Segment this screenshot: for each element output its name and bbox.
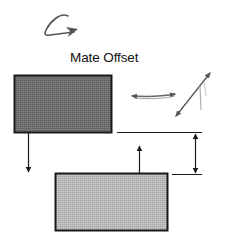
upper-part [15, 76, 112, 133]
lower-part [56, 174, 168, 231]
double-arrow-diagonal-icon [176, 73, 210, 116]
double-arrow-horizontal-icon [132, 94, 175, 99]
diagram-graphics [0, 0, 225, 248]
curved-arrow-icon [45, 15, 78, 37]
diagram-title: Mate Offset [70, 50, 138, 65]
mate-offset-diagram: Mate Offset [0, 0, 225, 248]
